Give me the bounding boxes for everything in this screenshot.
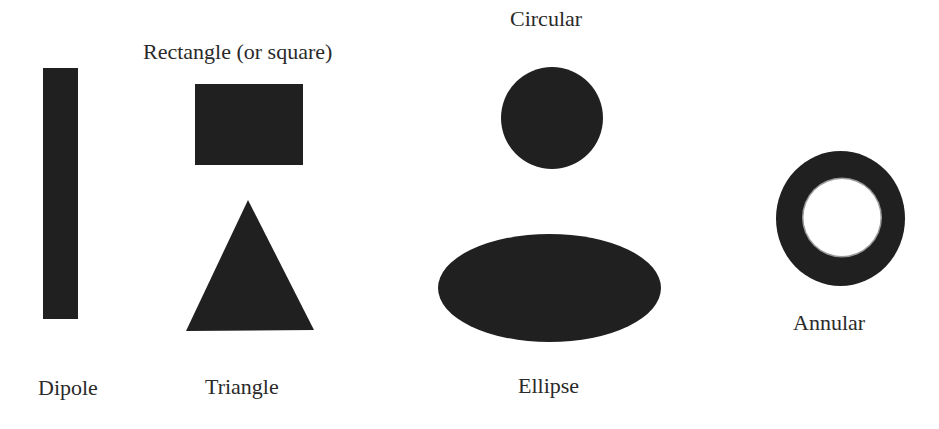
triangle-shape <box>186 200 314 331</box>
annular-label: Annular <box>793 312 865 334</box>
shapes-layer <box>0 0 939 429</box>
annular-shape <box>776 151 905 286</box>
ellipse-label: Ellipse <box>518 375 579 397</box>
antenna-shapes-diagram: Rectangle (or square) Circular Annular D… <box>0 0 939 429</box>
rectangle-label: Rectangle (or square) <box>143 41 332 63</box>
rectangle-shape <box>195 84 303 165</box>
dipole-label: Dipole <box>38 377 98 399</box>
circular-label: Circular <box>510 8 582 30</box>
circular-shape <box>501 67 603 169</box>
ellipse-shape <box>438 234 661 342</box>
triangle-label: Triangle <box>205 376 279 398</box>
dipole-shape <box>43 68 78 319</box>
